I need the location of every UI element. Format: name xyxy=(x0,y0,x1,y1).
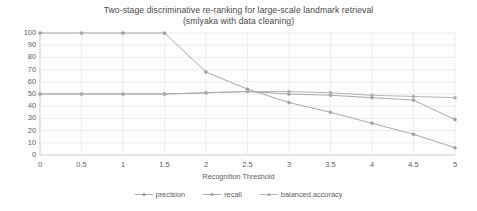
y-tick-label: 100 xyxy=(12,29,36,37)
data-point xyxy=(205,71,208,74)
data-point xyxy=(288,101,291,104)
data-point xyxy=(80,93,83,96)
y-tick-label: 20 xyxy=(12,127,36,135)
y-tick-label: 90 xyxy=(12,41,36,49)
x-tick-label: 3.5 xyxy=(325,160,335,169)
x-tick-label: 0 xyxy=(38,160,42,169)
y-tick-label: 0 xyxy=(12,151,36,159)
x-tick-label: 0.5 xyxy=(76,160,86,169)
legend-label: precision xyxy=(156,190,186,199)
y-tick-label: 50 xyxy=(12,90,36,98)
y-tick-label: 40 xyxy=(12,102,36,110)
legend-marker-icon xyxy=(203,191,221,198)
chart-title-block: Two-stage discriminative re-ranking for … xyxy=(0,5,477,27)
y-tick-label: 60 xyxy=(12,78,36,86)
legend-item-recall[interactable]: recall xyxy=(203,190,242,199)
legend-marker-icon xyxy=(260,191,278,198)
data-point xyxy=(329,91,332,94)
data-point xyxy=(412,99,415,102)
x-tick-label: 3 xyxy=(287,160,291,169)
data-point xyxy=(454,118,457,121)
y-tick-label: 30 xyxy=(12,114,36,122)
data-point xyxy=(205,91,208,94)
data-point xyxy=(122,93,125,96)
chart-legend: precisionrecallbalanced accuracy xyxy=(0,190,477,199)
y-tick-label: 10 xyxy=(12,139,36,147)
data-point xyxy=(371,122,374,125)
data-point xyxy=(163,93,166,96)
x-tick-label: 2 xyxy=(204,160,208,169)
x-tick-label: 5 xyxy=(453,160,457,169)
data-point xyxy=(288,90,291,93)
data-point xyxy=(39,32,42,35)
x-tick-label: 4.5 xyxy=(408,160,418,169)
legend-label: balanced accuracy xyxy=(281,190,343,199)
plot-svg xyxy=(40,33,455,155)
data-point xyxy=(122,32,125,35)
y-tick-label: 70 xyxy=(12,66,36,74)
legend-item-balanced-accuracy[interactable]: balanced accuracy xyxy=(260,190,343,199)
legend-marker-icon xyxy=(135,191,153,198)
x-tick-label: 4 xyxy=(370,160,374,169)
legend-label: recall xyxy=(224,190,242,199)
data-point xyxy=(39,93,42,96)
data-point xyxy=(454,146,457,149)
data-point xyxy=(412,133,415,136)
y-tick-label: 80 xyxy=(12,53,36,61)
x-tick-label: 2.5 xyxy=(242,160,252,169)
data-point xyxy=(329,111,332,114)
x-axis-tick-labels: 00.511.522.533.544.55 xyxy=(40,160,455,172)
data-point xyxy=(454,96,457,99)
chart-title: Two-stage discriminative re-ranking for … xyxy=(0,5,477,16)
chart-subtitle: (smlyaka with data cleaning) xyxy=(0,16,477,27)
x-axis-title: Recognition Threshold xyxy=(0,172,477,181)
x-tick-label: 1 xyxy=(121,160,125,169)
data-point xyxy=(80,32,83,35)
data-point xyxy=(163,32,166,35)
data-point xyxy=(412,95,415,98)
data-point xyxy=(246,90,249,93)
chart-container: Two-stage discriminative re-ranking for … xyxy=(0,0,477,211)
x-tick-label: 1.5 xyxy=(159,160,169,169)
y-axis-tick-labels: 0102030405060708090100 xyxy=(12,29,36,159)
data-point xyxy=(371,94,374,97)
plot-area xyxy=(40,33,455,155)
legend-item-precision[interactable]: precision xyxy=(135,190,186,199)
